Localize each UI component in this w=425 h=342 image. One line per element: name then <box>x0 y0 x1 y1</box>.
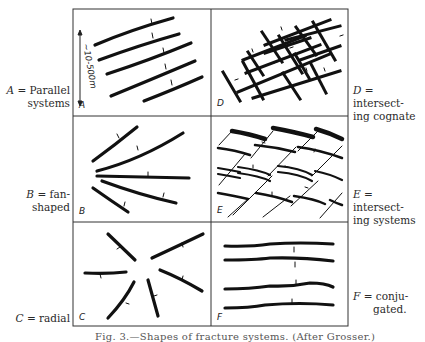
scale-annotation: ~10-500m <box>81 43 99 90</box>
panel-d-intersecting-cognate <box>223 20 343 101</box>
panel-e-intersecting-systems <box>218 128 342 218</box>
panel-d-letter: D <box>217 98 224 108</box>
scale-arrow-icon <box>78 30 82 106</box>
panel-c-radial <box>85 234 203 318</box>
panel-f-conjugated <box>225 243 333 308</box>
panel-e-letter: E <box>217 205 223 215</box>
figure-caption: Fig. 3.—Shapes of fracture systems. (Aft… <box>95 331 375 342</box>
panel-a-parallel <box>95 18 202 101</box>
panel-c-letter: C <box>79 312 86 322</box>
panel-f-ticks <box>292 247 296 304</box>
panel-f-letter: F <box>217 312 223 322</box>
panel-b-fan <box>93 127 189 212</box>
panel-a-letter: A <box>78 100 85 110</box>
panel-b-letter: B <box>79 206 85 216</box>
